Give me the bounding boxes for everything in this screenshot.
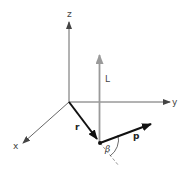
y-axis-label: y (172, 97, 178, 107)
r-vector-label: r (75, 122, 80, 132)
z-axis-label: z (67, 9, 72, 19)
x-axis-label: x (13, 141, 19, 151)
L-vector-label: L (105, 74, 110, 84)
p-vector-label: p (133, 131, 140, 141)
L-vector: L (100, 55, 111, 142)
r-vector: r (69, 102, 97, 139)
x-axis: x (13, 102, 69, 151)
p-vector: p (100, 124, 151, 143)
particle-point (98, 141, 102, 145)
y-axis: y (69, 97, 178, 107)
angular-momentum-diagram: z y x L β r p (0, 0, 189, 174)
z-axis: z (67, 9, 72, 102)
angle-beta-label: β (104, 144, 110, 154)
